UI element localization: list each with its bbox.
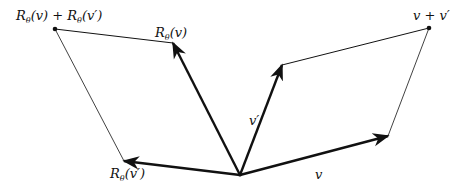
edge-Rvprime-to-Rsum: [55, 29, 124, 161]
label-R-v-prime: Rθ(v′): [109, 166, 145, 183]
point-R-sum: [53, 27, 58, 32]
vector-v: [240, 136, 388, 175]
edge-v-to-sum: [388, 28, 429, 136]
point-v-plus-v-prime: [427, 26, 432, 31]
vector-R-v: [173, 43, 240, 175]
edge-vprime-to-sum: [282, 28, 429, 65]
vector-v-prime: [240, 65, 282, 175]
label-v-plus-v-prime: v + v′: [413, 8, 450, 23]
label-R-v: Rθ(v): [154, 25, 187, 42]
diagram-canvas: v v′ v + v′ Rθ(v) Rθ(v′) Rθ(v) + Rθ(v′): [0, 0, 461, 190]
point-origin: [238, 173, 241, 176]
label-v: v: [315, 167, 323, 182]
label-R-sum: Rθ(v) + Rθ(v′): [15, 8, 102, 25]
label-v-prime: v′: [249, 113, 259, 128]
vector-diagram: v v′ v + v′ Rθ(v) Rθ(v′) Rθ(v) + Rθ(v′): [0, 0, 461, 190]
